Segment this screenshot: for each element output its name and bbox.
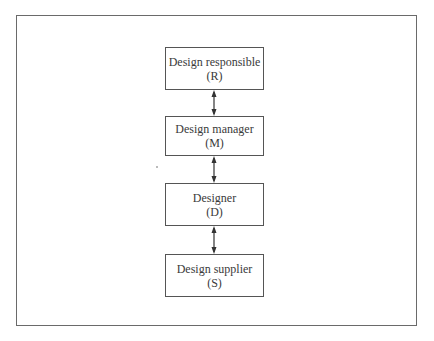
double-arrow-icon — [212, 90, 217, 116]
double-arrow-icon — [212, 226, 217, 254]
double-arrow-icon — [212, 156, 217, 183]
scan-speck — [156, 166, 158, 168]
connector-arrows — [0, 0, 434, 341]
